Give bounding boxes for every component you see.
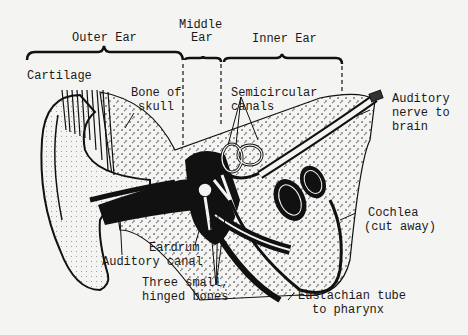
label-eustachian-1: Eustachian tube xyxy=(298,289,406,303)
label-outer-ear: Outer Ear xyxy=(72,31,137,45)
ear-illustration xyxy=(0,0,468,335)
label-cochlea-2: (cut away) xyxy=(364,220,436,234)
label-bone-of-skull-1: Bone of xyxy=(131,86,181,100)
label-middle-ear-line2: Ear xyxy=(191,31,213,45)
label-auditory-nerve-3: brain xyxy=(392,120,428,134)
label-three-bones-1: Three small, xyxy=(142,276,228,290)
label-auditory-nerve-2: nerve to xyxy=(392,106,450,120)
ossicle xyxy=(198,183,212,197)
section-braces xyxy=(27,46,342,64)
label-middle-ear-line1: Middle xyxy=(179,18,222,32)
label-eustachian-2: to pharynx xyxy=(312,303,384,317)
label-cochlea-1: Cochlea xyxy=(368,206,418,220)
label-inner-ear: Inner Ear xyxy=(252,32,317,46)
label-three-bones-2: hinged bones xyxy=(142,290,228,304)
label-cartilage: Cartilage xyxy=(27,69,92,83)
label-auditory-canal: Auditory canal xyxy=(102,255,203,269)
label-semicircular-2: canals xyxy=(231,100,274,114)
label-auditory-nerve-1: Auditory xyxy=(392,92,450,106)
label-eardrum: Eardrum xyxy=(149,241,199,255)
label-bone-of-skull-2: skull xyxy=(138,100,174,114)
label-semicircular-1: Semicircular xyxy=(231,86,317,100)
ear-anatomy-diagram: Outer Ear Middle Ear Inner Ear Cartilage… xyxy=(0,0,468,335)
